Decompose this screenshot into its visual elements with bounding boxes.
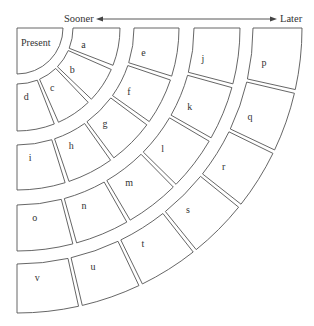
present-cell: Present (17, 28, 63, 74)
cell-o: o (17, 199, 73, 251)
cell-label-h: h (69, 140, 74, 151)
cell-label-l: l (161, 143, 164, 154)
cell-label-a: a (81, 39, 86, 50)
cell-label-v: v (35, 272, 40, 283)
cell-label-p: p (261, 57, 266, 68)
sector-o (17, 199, 73, 251)
cell-label-e: e (141, 47, 146, 58)
time-horizon-fan-diagram: Sooner Later Present abcdefghijklmnopqrs… (0, 0, 314, 326)
sector-v (17, 258, 79, 313)
cell-label-o: o (32, 212, 37, 223)
arrow-right-icon (270, 17, 277, 22)
cell-label-i: i (29, 152, 32, 163)
cell-p: p (247, 28, 302, 90)
cell-label-j: j (201, 53, 205, 64)
cell-label-t: t (141, 238, 144, 249)
cell-label-k: k (187, 101, 192, 112)
cell-label-d: d (24, 91, 29, 102)
time-axis: Sooner Later (64, 13, 303, 24)
cell-label-q: q (248, 111, 253, 122)
cell-j: j (188, 28, 240, 84)
arrow-left-icon (96, 17, 103, 22)
cell-label-g: g (102, 118, 107, 129)
cell-label-s: s (186, 204, 190, 215)
cell-v: v (17, 258, 79, 313)
cell-label-b: b (70, 64, 75, 75)
cell-label-m: m (125, 177, 133, 188)
sooner-label: Sooner (64, 13, 94, 24)
time-rings: abcdefghijklmnopqrstuv (17, 28, 302, 313)
later-label: Later (280, 13, 303, 24)
cell-label-c: c (50, 82, 55, 93)
present-label: Present (21, 37, 51, 48)
present-sector (17, 28, 63, 74)
sector-j (188, 28, 240, 84)
cell-label-n: n (81, 200, 86, 211)
cell-label-u: u (90, 261, 95, 272)
sector-p (247, 28, 302, 90)
